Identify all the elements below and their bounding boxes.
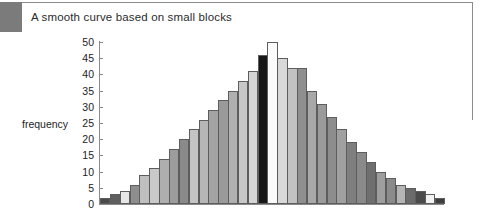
figure: A smooth curve based on small blocks fre… — [0, 0, 497, 222]
bar — [189, 129, 199, 204]
bar — [287, 68, 297, 204]
bar — [267, 42, 277, 204]
bar — [415, 191, 425, 204]
bar — [120, 191, 130, 204]
bar — [238, 81, 248, 204]
bar — [317, 104, 327, 204]
bar-series — [0, 0, 497, 222]
bar — [435, 198, 445, 204]
bar — [218, 100, 228, 204]
bar — [336, 129, 346, 204]
bar — [366, 162, 376, 204]
bar — [169, 149, 179, 204]
chart-plot-area: frequency 05101520253035404550 — [0, 0, 497, 222]
bar — [139, 175, 149, 204]
bar — [386, 178, 396, 204]
